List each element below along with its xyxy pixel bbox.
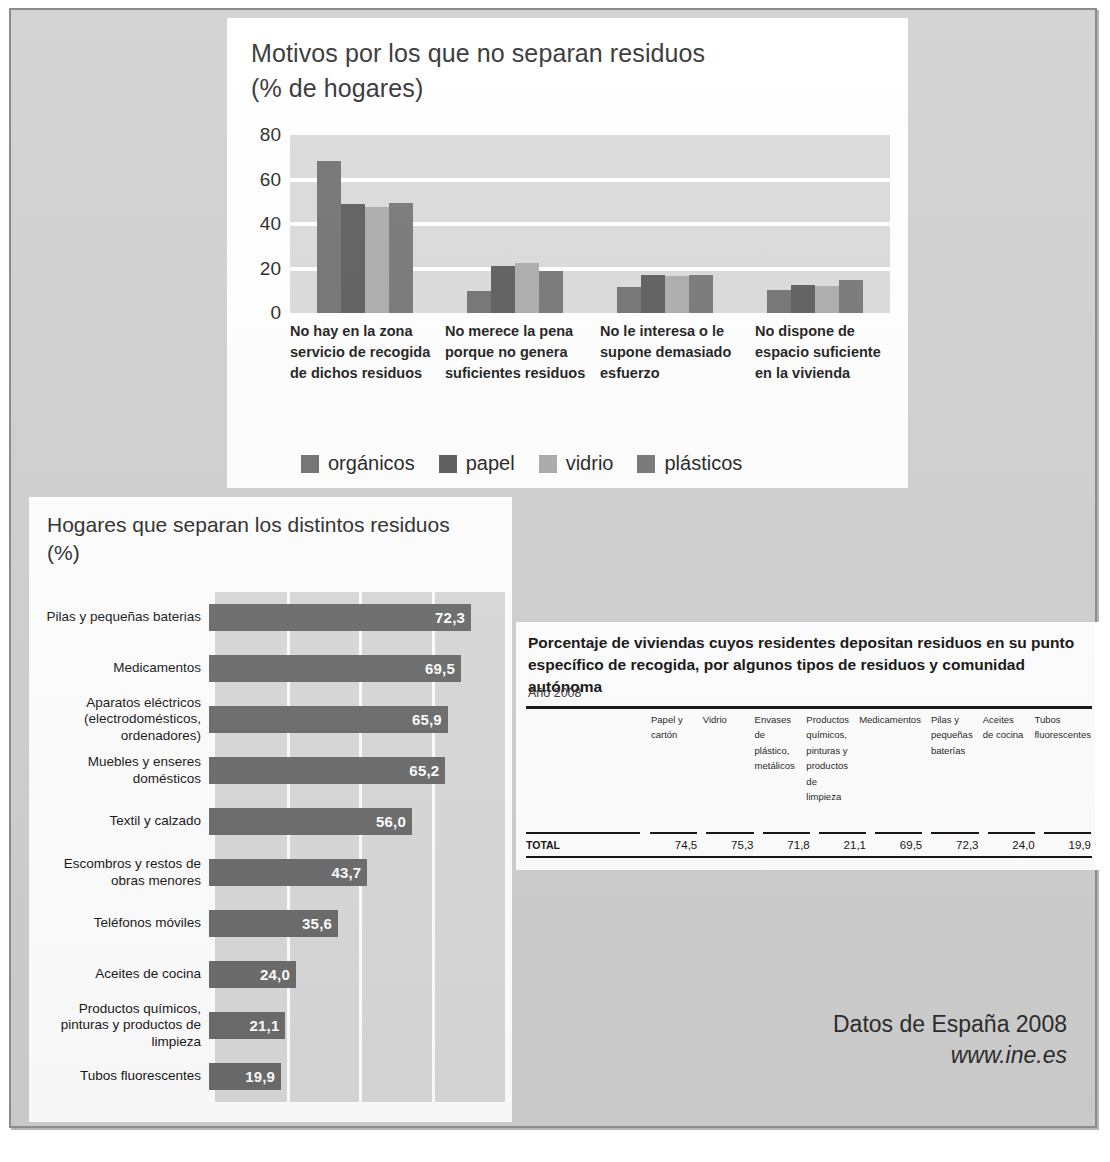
- motivos-bar-papel: [341, 204, 365, 313]
- tabla-header-row: Papel y cartónVidrioEnvases de plástico,…: [526, 712, 1096, 804]
- tabla-subtitle: Año 2008: [528, 686, 582, 700]
- motivos-y-tick: 80: [260, 124, 281, 146]
- legend-item-orgánicos: orgánicos: [301, 452, 415, 475]
- poster-frame: Motivos por los que no separan residuos …: [9, 8, 1097, 1128]
- hogares-row: Productos químicos,pinturas y productos …: [29, 1000, 506, 1051]
- table-row: TOTAL 74,575,371,821,169,572,324,019,9: [526, 836, 1096, 854]
- panel-motivos-title-line1: Motivos por los que no separan residuos: [251, 36, 871, 71]
- motivos-bar-vidrio: [815, 286, 839, 313]
- legend-swatch-icon: [539, 455, 557, 473]
- tabla-column-header: Tubos fluorescentes: [1029, 712, 1096, 804]
- motivos-bar-vidrio: [665, 276, 689, 313]
- motivos-bar-orgánicos: [767, 290, 791, 313]
- hogares-value-label: 69,5: [425, 660, 461, 677]
- panel-hogares-title: Hogares que separan los distintos residu…: [47, 511, 497, 568]
- hogares-row-label: Tubos fluorescentes: [29, 1068, 209, 1084]
- legend-label: papel: [466, 452, 515, 475]
- motivos-group: [740, 135, 890, 313]
- footer-credit: Datos de España 2008 www.ine.es: [707, 1010, 1067, 1071]
- tabla-rule-segment: [763, 832, 810, 834]
- tabla-rule-segment: [526, 832, 640, 834]
- footer-url: www.ine.es: [707, 1040, 1067, 1071]
- motivos-group: [290, 135, 440, 313]
- legend-item-vidrio: vidrio: [539, 452, 614, 475]
- hogares-bar-rows: Pilas y pequeñas baterias72,3Medicamento…: [29, 592, 506, 1102]
- legend-swatch-icon: [301, 455, 319, 473]
- tabla-cell: 69,5: [871, 839, 927, 851]
- hogares-bar: 65,2: [209, 757, 445, 784]
- tabla-row-label: TOTAL: [526, 839, 646, 851]
- hogares-value-label: 56,0: [376, 813, 412, 830]
- motivos-bar-plásticos: [539, 271, 563, 313]
- tabla-column-header: Envases de plástico, metálicos: [750, 712, 802, 804]
- tabla-title-line1: Porcentaje de viviendas cuyos residentes…: [528, 632, 1088, 654]
- legend-label: plásticos: [664, 452, 742, 475]
- hogares-row: Teléfonos móviles35,6: [29, 898, 506, 949]
- hogares-bar-track: 65,9: [209, 694, 499, 745]
- panel-tabla-porcentaje: Porcentaje de viviendas cuyos residentes…: [516, 622, 1101, 870]
- tabla-column-header: Papel y cartón: [646, 712, 698, 804]
- tabla-column-header: Productos químicos, pinturas y productos…: [801, 712, 854, 804]
- tabla-rule-segment: [931, 832, 978, 834]
- hogares-bar: 43,7: [209, 859, 367, 886]
- panel-hogares-title-line1: Hogares que separan los distintos residu…: [47, 511, 497, 539]
- tabla-column-header: Pilas y pequeñas baterías: [926, 712, 978, 804]
- legend-label: orgánicos: [328, 452, 415, 475]
- tabla-rule-segment: [1044, 832, 1091, 834]
- tabla-bottom-rule: [526, 856, 1092, 858]
- motivos-category-label: No hay en la zona servicio de recogida d…: [290, 321, 445, 431]
- hogares-bar: 69,5: [209, 655, 461, 682]
- hogares-row: Textil y calzado56,0: [29, 796, 506, 847]
- footer-source-line: Datos de España 2008: [707, 1010, 1067, 1040]
- hogares-bar: 72,3: [209, 604, 471, 631]
- legend-item-plásticos: plásticos: [637, 452, 742, 475]
- motivos-bar-orgánicos: [317, 161, 341, 313]
- motivos-y-tick: 20: [260, 258, 281, 280]
- panel-motivos-no-separan: Motivos por los que no separan residuos …: [227, 18, 908, 488]
- tabla-rule-segment: [819, 832, 866, 834]
- hogares-bar-track: 24,0: [209, 949, 499, 1000]
- hogares-row-label: Teléfonos móviles: [29, 915, 209, 931]
- hogares-row-label: Textil y calzado: [29, 813, 209, 829]
- hogares-row-label: Escombros y restos deobras menores: [29, 856, 209, 889]
- panel-hogares-separan: Hogares que separan los distintos residu…: [29, 497, 512, 1122]
- hogares-value-label: 65,2: [409, 762, 445, 779]
- hogares-row: Pilas y pequeñas baterias72,3: [29, 592, 506, 643]
- tabla-cell: 71,8: [759, 839, 815, 851]
- hogares-value-label: 35,6: [302, 915, 338, 932]
- legend-label: vidrio: [566, 452, 614, 475]
- hogares-row-label: Muebles y enseresdomésticos: [29, 754, 209, 787]
- hogares-row: Aparatos eléctricos(electrodomésticos,or…: [29, 694, 506, 745]
- motivos-category-label: No dispone de espacio suficiente en la v…: [755, 321, 910, 431]
- motivos-category-label: No le interesa o le supone demasiado esf…: [600, 321, 755, 431]
- hogares-value-label: 19,9: [245, 1068, 281, 1085]
- legend-swatch-icon: [439, 455, 457, 473]
- motivos-y-tick: 60: [260, 169, 281, 191]
- panel-hogares-title-line2: (%): [47, 539, 497, 567]
- hogares-bar-track: 72,3: [209, 592, 499, 643]
- motivos-bar-papel: [491, 266, 515, 313]
- hogares-bar: 56,0: [209, 808, 412, 835]
- hogares-row-label: Productos químicos,pinturas y productos …: [29, 1001, 209, 1050]
- motivos-bar-groups: [290, 135, 890, 313]
- legend-swatch-icon: [637, 455, 655, 473]
- hogares-bar: 65,9: [209, 706, 448, 733]
- motivos-bar-orgánicos: [467, 291, 491, 313]
- hogares-row: Tubos fluorescentes19,9: [29, 1051, 506, 1102]
- hogares-bar-track: 69,5: [209, 643, 499, 694]
- tabla-title-line2: específico de recogida, por algunos tipo…: [528, 654, 1088, 698]
- motivos-bar-orgánicos: [617, 287, 641, 313]
- panel-motivos-title: Motivos por los que no separan residuos …: [251, 36, 871, 105]
- motivos-category-labels: No hay en la zona servicio de recogida d…: [290, 321, 910, 431]
- tabla-rule-segment: [875, 832, 922, 834]
- hogares-row: Escombros y restos deobras menores43,7: [29, 847, 506, 898]
- hogares-bar-track: 56,0: [209, 796, 499, 847]
- hogares-bar: 19,9: [209, 1063, 281, 1090]
- tabla-rule-segment: [988, 832, 1035, 834]
- hogares-bar: 35,6: [209, 910, 338, 937]
- tabla-column-header: Medicamentos: [854, 712, 926, 804]
- motivos-y-tick: 0: [270, 302, 281, 324]
- hogares-row-label: Aceites de cocina: [29, 966, 209, 982]
- motivos-bar-plásticos: [689, 275, 713, 313]
- tabla-rule-segment: [706, 832, 753, 834]
